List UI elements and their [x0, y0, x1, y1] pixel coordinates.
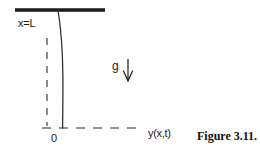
- origin-label: 0: [51, 133, 57, 144]
- figure-caption: Figure 3.11.: [197, 129, 257, 144]
- support-label: x=L: [18, 18, 35, 29]
- figure-container: x=L g 0 y(x,t) Figure 3.11.: [0, 0, 260, 162]
- gravity-label: g: [112, 60, 119, 72]
- displacement-axis-label: y(x,t): [148, 128, 171, 139]
